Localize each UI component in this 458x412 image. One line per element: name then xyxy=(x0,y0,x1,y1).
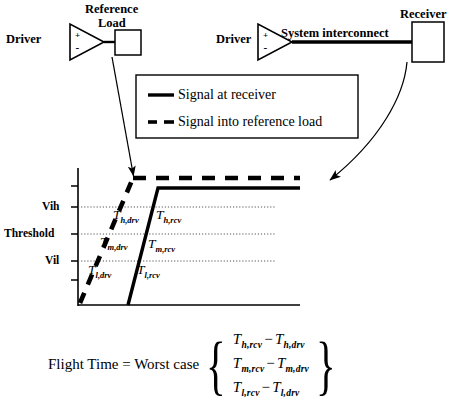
t-l-rcv-sub: l,rcv xyxy=(145,270,160,280)
axis-label-vih: Vih xyxy=(42,201,59,213)
t-m-rcv-base: T xyxy=(148,236,156,251)
flight-time-equation-lead: Flight Time = Worst case xyxy=(48,356,200,373)
plot-y-ticks xyxy=(71,186,78,280)
t-l-drv-base: T xyxy=(88,262,96,277)
t-h-rcv-sub: h,rcv xyxy=(164,215,182,225)
waveform-label-t-l-rcv: Tl,rcv xyxy=(137,263,160,279)
row-high-right-sub: h,drv xyxy=(283,340,304,350)
t-m-drv-sub: m,drv xyxy=(108,242,128,252)
svg-text:-: - xyxy=(76,41,80,53)
flight-time-equation: Flight Time = Worst case { Th,rcv−Th,drv… xyxy=(48,331,342,398)
receiver-label: Receiver xyxy=(400,8,447,21)
equation-row-high: Th,rcv−Th,drv xyxy=(233,331,309,350)
row-low-op: − xyxy=(260,379,273,395)
row-low-left-sub: l,rcv xyxy=(241,388,259,398)
reference-load-box xyxy=(115,30,141,55)
system-driver-label: Driver xyxy=(216,33,251,46)
t-h-drv-base: T xyxy=(113,207,121,222)
svg-text:-: - xyxy=(264,41,268,53)
svg-text:+: + xyxy=(75,30,80,40)
diagram-root: + - + - xyxy=(0,0,458,412)
waveform-label-t-h-rcv: Th,rcv xyxy=(156,208,181,224)
waveform-label-t-m-drv: Tm,drv xyxy=(100,235,128,251)
t-h-drv-sub: h,drv xyxy=(121,215,139,225)
t-m-drv-base: T xyxy=(100,234,108,249)
axis-label-threshold: Threshold xyxy=(4,228,54,240)
svg-text:+: + xyxy=(263,30,268,40)
equation-rows: Th,rcv−Th,drv Tm,rcv−Tm,drv Tl,rcv−Tl,dr… xyxy=(232,331,310,398)
receiver-box xyxy=(412,22,444,62)
equation-row-low: Tl,rcv−Tl,drv xyxy=(233,379,309,398)
row-low-right-sub: l,drv xyxy=(281,388,300,398)
waveform-label-t-m-rcv: Tm,rcv xyxy=(148,237,175,253)
system-interconnect-label: System interconnect xyxy=(281,27,389,40)
legend-label-solid: Signal at receiver xyxy=(178,88,276,102)
row-mid-right-sub: m,drv xyxy=(286,364,309,374)
waveform-label-t-l-drv: Tl,drv xyxy=(88,263,111,279)
reference-load-callout-arrow xyxy=(112,57,134,176)
row-low-right-base: T xyxy=(272,379,281,395)
equation-brace-open: { xyxy=(206,339,226,390)
row-mid-op: − xyxy=(264,355,277,371)
t-m-rcv-sub: m,rcv xyxy=(156,244,176,254)
reference-driver-label: Driver xyxy=(6,33,41,46)
row-high-op: − xyxy=(262,331,275,347)
t-l-drv-sub: l,drv xyxy=(96,270,112,280)
reference-load-label-line2: Load xyxy=(98,17,126,30)
reference-load-label-line1: Reference xyxy=(85,3,138,16)
t-l-rcv-base: T xyxy=(137,262,145,277)
t-h-rcv-base: T xyxy=(156,207,164,222)
equation-brace-close: } xyxy=(316,339,336,390)
axis-label-vil: Vil xyxy=(45,255,59,267)
legend-label-dashed: Signal into reference load xyxy=(178,115,322,129)
waveform-label-t-h-drv: Th,drv xyxy=(113,208,139,224)
row-mid-right-base: T xyxy=(277,355,286,371)
equation-row-mid: Tm,rcv−Tm,drv xyxy=(233,355,309,374)
row-high-left-sub: h,rcv xyxy=(241,340,262,350)
row-mid-left-sub: m,rcv xyxy=(241,364,264,374)
